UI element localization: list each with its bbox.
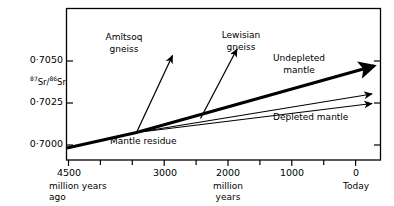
annotation-depleted-mantle: Depleted mantle	[273, 112, 348, 122]
series-amitsoq-gneiss	[137, 56, 173, 133]
y-axis-title-sr-1: Sr/	[38, 77, 50, 87]
x-tick-label-1000: 1000	[271, 168, 313, 179]
x-tick-label-2000: 2000	[207, 168, 249, 179]
x-axis-ticks	[69, 160, 356, 166]
x-tick-label-0: 0	[335, 168, 377, 179]
x-axis-caption-mid-line3: years	[207, 192, 249, 202]
x-axis-caption-today: Today	[333, 181, 379, 191]
annotation-undepleted-mantle-line1: Undepleted	[265, 53, 333, 63]
x-axis-caption-left-line2: million years	[49, 181, 107, 191]
annotation-amitsoq-gneiss-line2: gneiss	[95, 44, 153, 54]
x-tick-label-3000: 3000	[144, 168, 186, 179]
y-axis-ticks	[67, 61, 74, 145]
y-axis-title-sup-87: 87	[30, 75, 38, 82]
y-tick-label-0-7025: 0·7025	[8, 97, 63, 108]
annotation-mantle-residue: Mantle residue	[110, 136, 177, 146]
y-axis-title: 87Sr/86Sr	[11, 76, 66, 87]
x-tick-label-4500: 4500	[48, 168, 90, 179]
y-axis-title-sr-2: Sr	[57, 77, 66, 87]
x-axis-caption-left-line3: ago	[49, 192, 66, 202]
y-axis-ticks-right	[374, 61, 381, 145]
annotation-lewisian-gneiss-line1: Lewisian	[212, 30, 270, 40]
y-tick-label-0-7000: 0·7000	[8, 139, 63, 150]
y-axis-title-sup-86: 86	[49, 75, 57, 82]
chart-figure: 0·7050 0·7025 0·7000 87Sr/86Sr 4500 3000…	[0, 0, 394, 206]
y-tick-label-0-7050: 0·7050	[8, 55, 63, 66]
x-axis-caption-mid-line2: million	[207, 181, 249, 191]
annotation-lewisian-gneiss-line2: gneiss	[212, 42, 270, 52]
annotation-amitsoq-gneiss-line1: Amîtsoq	[95, 32, 153, 42]
annotation-undepleted-mantle-line2: mantle	[265, 65, 333, 75]
